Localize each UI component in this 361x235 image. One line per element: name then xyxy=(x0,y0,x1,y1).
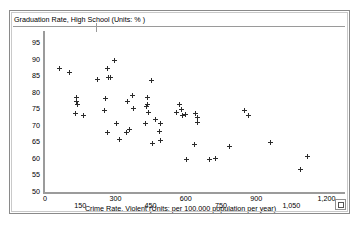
scatter-point xyxy=(131,106,136,111)
scatter-point xyxy=(75,102,80,107)
scatter-point xyxy=(125,99,130,104)
scatter-point xyxy=(305,154,310,159)
scatter-point xyxy=(174,110,179,115)
scatter-point xyxy=(242,108,247,113)
scatter-point xyxy=(103,96,108,101)
scatter-point xyxy=(150,141,155,146)
scatter-point xyxy=(192,142,197,147)
scatter-point xyxy=(183,112,188,117)
scatter-point xyxy=(112,58,117,63)
resize-grip-inner xyxy=(338,202,344,208)
scatter-point xyxy=(157,129,162,134)
scatter-plot-window: Graduation Rate, High School (Units: % )… xyxy=(9,10,350,214)
scatter-point xyxy=(67,70,72,75)
scatter-point xyxy=(298,167,303,172)
scatter-point xyxy=(143,121,148,126)
scatter-point xyxy=(213,156,218,161)
scatter-point xyxy=(268,140,273,145)
scatter-point xyxy=(127,127,132,132)
scatter-point xyxy=(146,110,151,115)
resize-grip-icon[interactable] xyxy=(335,199,346,210)
scatter-point xyxy=(114,121,119,126)
scatter-point xyxy=(108,75,113,80)
scatter-point xyxy=(105,130,110,135)
scatter-point xyxy=(95,77,100,82)
scatter-point xyxy=(102,108,107,113)
scatter-point xyxy=(81,113,86,118)
scatter-point xyxy=(149,78,154,83)
scatter-point xyxy=(73,111,78,116)
scatter-point xyxy=(246,113,251,118)
x-axis-label: Crime Rate, Violent (Units: per 100,000 … xyxy=(10,204,351,213)
scatter-point xyxy=(105,66,110,71)
scatter-points-layer xyxy=(10,11,351,215)
scatter-point xyxy=(195,115,200,120)
scatter-point xyxy=(158,138,163,143)
scatter-point xyxy=(195,120,200,125)
scatter-point xyxy=(145,95,150,100)
scatter-point xyxy=(158,121,163,126)
scatter-point xyxy=(153,117,158,122)
scatter-point xyxy=(144,104,149,109)
scatter-point xyxy=(117,137,122,142)
scatter-point xyxy=(130,93,135,98)
scatter-point xyxy=(57,66,62,71)
scatter-point xyxy=(184,157,189,162)
scatter-point xyxy=(207,157,212,162)
scatter-point xyxy=(227,144,232,149)
